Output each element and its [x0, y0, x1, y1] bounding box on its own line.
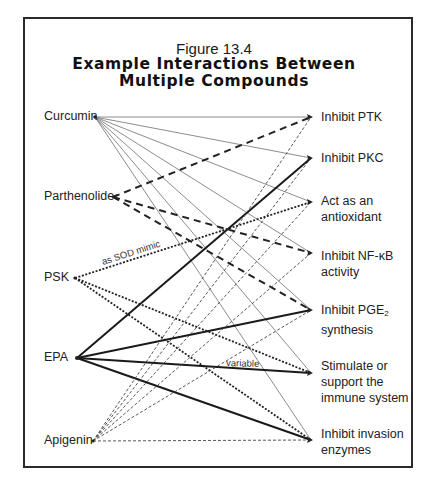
effect-invasion-line1: Inhibit invasion [321, 426, 404, 442]
effect-immune-line3: immune system [321, 390, 409, 406]
psk-node-point [73, 276, 76, 279]
epa-node-point [75, 356, 79, 360]
edge-apigenin-antioxidant [93, 202, 311, 441]
effect-pge2-subscript: 2 [384, 309, 388, 318]
effect-pge2-line1: Inhibit PGE2 [321, 302, 389, 322]
effect-nfkb-line2: activity [321, 264, 393, 280]
effect-pkc: Inhibit PKC [321, 150, 384, 166]
effect-nfkb: Inhibit NF-κB activity [321, 248, 393, 280]
effect-immune-line2: support the [321, 374, 409, 390]
effect-pge2-line2: synthesis [321, 322, 389, 338]
effect-antioxidant-line1: Act as an [321, 193, 381, 209]
effect-ptk-line1: Inhibit PTK [321, 109, 382, 125]
effect-pge2: Inhibit PGE2 synthesis [321, 302, 389, 338]
effect-antioxidant-line2: antioxidant [321, 209, 381, 225]
effect-immune-line1: Stimulate or [321, 358, 409, 374]
effect-ptk: Inhibit PTK [321, 109, 382, 125]
edge-epa-pge2 [77, 310, 311, 358]
effect-immune: Stimulate or support the immune system [321, 358, 409, 406]
interaction-diagram: as SOD mimic variable [0, 0, 428, 489]
effect-antioxidant: Act as an antioxidant [321, 193, 381, 225]
edge-curcumin-immune [95, 117, 311, 373]
effect-pkc-line1: Inhibit PKC [321, 150, 384, 166]
edge-apigenin-invasion [93, 440, 311, 441]
parthenolide-edges [113, 117, 311, 310]
nfkb-arrow-icon [307, 250, 313, 256]
compound-parthenolide: Parthenolide [44, 189, 114, 204]
antioxidant-arrow-icon [307, 199, 313, 205]
annotation-sod-mimic: as SOD mimic [100, 238, 161, 267]
compound-epa: EPA [44, 350, 68, 365]
node-points [73, 114, 313, 443]
edge-psk-immune [75, 278, 311, 373]
edge-parthenolide-ptk [113, 117, 311, 197]
apigenin-edges [93, 117, 311, 441]
compound-curcumin: Curcumin [44, 109, 98, 124]
edge-psk-antioxidant [75, 202, 311, 278]
effect-invasion: Inhibit invasion enzymes [321, 426, 404, 458]
effect-invasion-line2: enzymes [321, 442, 404, 458]
psk-edges [75, 202, 311, 440]
annotation-variable: variable [226, 357, 260, 369]
edge-curcumin-antioxidant [95, 117, 311, 202]
compound-psk: PSK [44, 270, 69, 285]
compound-apigenin: Apigenin [44, 433, 93, 448]
edge-apigenin-ptk [93, 117, 311, 441]
effect-nfkb-line1: Inhibit NF-κB [321, 248, 393, 264]
effect-pge2-line1-text: Inhibit PGE [321, 303, 384, 317]
